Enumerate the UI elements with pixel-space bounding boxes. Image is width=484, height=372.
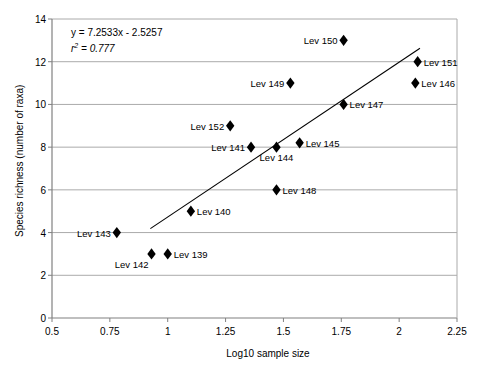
y-tick-label: 10 [22,99,46,110]
x-tick-label: 1.5 [276,326,290,337]
x-tick-label: 0.5 [45,326,59,337]
data-point-label: Lev 150 [304,35,338,46]
r-squared-exponent: 2 [74,42,78,49]
data-point-marker[interactable] [247,142,255,153]
data-point-marker[interactable] [147,248,155,259]
data-point-marker[interactable] [413,56,421,67]
data-point-label: Lev 139 [174,248,208,259]
data-point-label: Lev 146 [421,78,455,89]
data-point-label: Lev 143 [77,227,111,238]
data-point-marker[interactable] [226,120,234,131]
y-tick-label: 6 [22,184,46,195]
data-point-marker[interactable] [272,184,280,195]
regression-equation: y = 7.2533x - 2.5257 [71,26,162,39]
data-point-marker[interactable] [339,35,347,46]
data-point-label: Lev 151 [424,56,458,67]
data-point-marker[interactable] [187,206,195,217]
y-tick-label: 12 [22,56,46,67]
data-point-label: Lev 142 [115,258,149,269]
r-squared-value: = 0.777 [81,43,115,54]
r-squared-annotation: r2 = 0.777 [71,39,162,55]
scatter-chart: y = 7.2533x - 2.5257 r2 = 0.777 Species … [0,0,484,372]
data-point-marker[interactable] [286,77,294,88]
data-point-marker[interactable] [411,77,419,88]
y-tick-label: 2 [22,270,46,281]
y-tick-label: 8 [22,142,46,153]
x-tick-label: 2 [396,326,402,337]
x-tick-label: 1.25 [216,326,235,337]
data-point-marker[interactable] [113,227,121,238]
trendline [150,48,420,228]
plot-area [0,0,484,372]
data-point-label: Lev 144 [260,152,294,163]
y-tick-label: 0 [22,313,46,324]
x-tick-label: 2.25 [447,326,466,337]
data-point-label: Lev 149 [251,78,285,89]
regression-annotation: y = 7.2533x - 2.5257 r2 = 0.777 [71,26,162,55]
trendline-path [150,48,420,228]
x-axis-title: Log10 sample size [26,348,484,359]
data-point-marker[interactable] [339,99,347,110]
data-point-label: Lev 145 [306,137,340,148]
y-tick-label: 14 [22,14,46,25]
data-point-label: Lev 141 [211,142,245,153]
x-tick-label: 0.75 [100,326,119,337]
data-point-label: Lev 140 [197,206,231,217]
data-point-marker[interactable] [272,142,280,153]
x-tick-label: 1 [165,326,171,337]
y-tick-label: 4 [22,227,46,238]
data-point-label: Lev 148 [282,184,316,195]
data-point-marker[interactable] [164,248,172,259]
x-tick-label: 1.75 [332,326,351,337]
data-point-label: Lev 147 [350,99,384,110]
data-point-label: Lev 152 [190,120,224,131]
